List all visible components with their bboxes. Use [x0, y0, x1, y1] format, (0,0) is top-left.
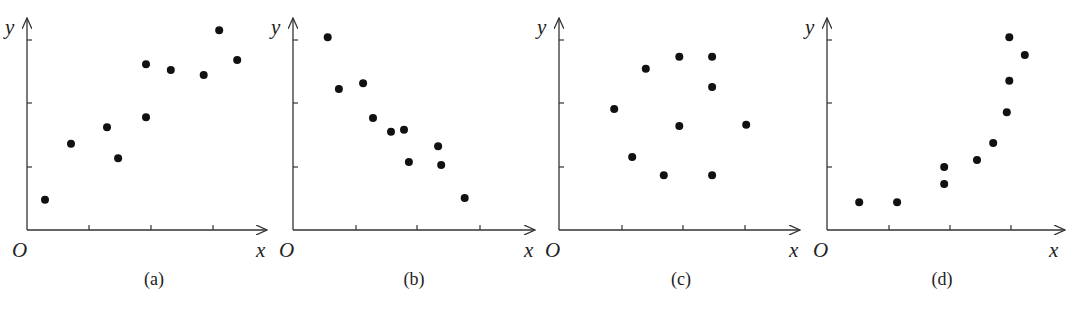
data-point — [855, 198, 863, 206]
y-axis-label: y — [269, 15, 281, 39]
data-point — [405, 158, 413, 166]
data-point — [660, 171, 668, 179]
data-point — [1005, 33, 1013, 41]
data-point — [114, 154, 122, 162]
panel-d: y O x (d) — [803, 15, 1065, 290]
data-point — [708, 53, 716, 61]
data-point — [610, 105, 618, 113]
data-point — [324, 33, 332, 41]
data-point — [67, 140, 75, 148]
panel-b: y O x (b) — [269, 15, 535, 290]
panel-caption: (c) — [671, 269, 691, 290]
origin-label: O — [813, 238, 828, 262]
data-point — [233, 56, 241, 64]
data-point — [1003, 108, 1011, 116]
data-point — [142, 60, 150, 68]
origin-label: O — [279, 238, 294, 262]
data-point — [461, 194, 469, 202]
x-axis-label: x — [523, 238, 534, 262]
data-point — [893, 198, 901, 206]
panel-a: y O x (a) — [3, 15, 267, 290]
data-points — [855, 33, 1029, 206]
panel-caption: (d) — [932, 269, 953, 290]
data-point — [142, 113, 150, 121]
data-point — [103, 123, 111, 131]
panel-c: y O x (c) — [535, 15, 800, 290]
x-axis-label: x — [255, 238, 266, 262]
data-point — [940, 180, 948, 188]
data-point — [167, 66, 175, 74]
y-axis-label: y — [803, 15, 815, 39]
data-point — [215, 26, 223, 34]
origin-label: O — [12, 238, 27, 262]
x-axis-ticks — [89, 225, 213, 230]
data-point — [41, 196, 49, 204]
y-axis-ticks — [559, 40, 564, 167]
data-point — [434, 142, 442, 150]
data-point — [742, 121, 750, 129]
data-point — [989, 139, 997, 147]
panel-caption: (b) — [404, 269, 425, 290]
x-axis-ticks — [889, 225, 1011, 230]
data-point — [708, 83, 716, 91]
data-point — [335, 85, 343, 93]
x-axis-label: x — [788, 238, 799, 262]
data-point — [675, 122, 683, 130]
data-point — [642, 65, 650, 73]
y-axis-label: y — [535, 15, 547, 39]
data-point — [628, 153, 636, 161]
data-point — [708, 171, 716, 179]
x-axis-label: x — [1048, 238, 1059, 262]
data-point — [940, 163, 948, 171]
origin-label: O — [545, 238, 560, 262]
x-axis-ticks — [356, 225, 480, 230]
data-point — [1005, 77, 1013, 85]
data-point — [200, 71, 208, 79]
y-axis-ticks — [293, 40, 298, 167]
data-point — [400, 126, 408, 134]
data-point — [359, 79, 367, 87]
y-axis-ticks — [827, 40, 832, 167]
scatter-figure: y O x (a) y O x (b) — [0, 0, 1074, 319]
panel-caption: (a) — [144, 269, 164, 290]
data-point — [675, 53, 683, 61]
data-points — [324, 33, 469, 202]
y-axis-ticks — [27, 40, 32, 167]
y-axis-label: y — [3, 15, 15, 39]
data-point — [369, 114, 377, 122]
data-point — [973, 156, 981, 164]
data-point — [437, 161, 445, 169]
data-points — [41, 26, 241, 204]
data-point — [1021, 51, 1029, 59]
x-axis-ticks — [622, 225, 745, 230]
data-points — [610, 53, 750, 179]
data-point — [387, 128, 395, 136]
